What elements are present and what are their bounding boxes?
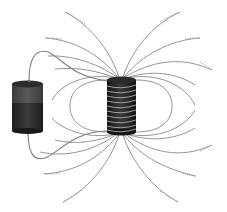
diagram-canvas: Battery connected by wires to a solenoid… [0,0,227,212]
solenoid-coil [107,77,136,136]
solenoid-field-diagram [0,0,227,212]
battery [12,80,43,134]
field-lines-top [45,12,212,85]
field-lines-bottom [40,128,212,202]
battery-terminal-icon [28,80,30,82]
